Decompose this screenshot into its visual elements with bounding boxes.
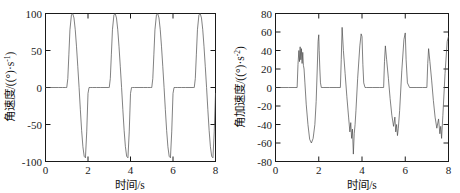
y-tick-label: -80	[257, 156, 272, 168]
y-axis-title-cn: 角速度	[3, 88, 16, 122]
x-tick-label: 2	[85, 164, 91, 176]
y-axis-title-cn: 角加速度	[233, 83, 246, 128]
x-axis-title-cn: 时间	[115, 179, 137, 191]
y-tick-label: 40	[261, 45, 273, 57]
y-axis-title-right: 角加速度/((°)·s-2)	[233, 46, 247, 128]
x-tick-label: 6	[170, 164, 176, 176]
y-tick-labels-left: 100 50 0 -50 -100	[22, 8, 43, 168]
x-tick-label: 8	[446, 164, 452, 176]
data-series-angular-velocity	[46, 14, 216, 158]
y-tick-label: 0	[37, 82, 43, 94]
x-tick-label: 0	[43, 164, 49, 176]
x-axis-title-right: 时间/s	[347, 179, 377, 191]
x-tick-labels-right: 0 2 4 6 8	[273, 164, 452, 176]
y-tick-label: -50	[27, 119, 42, 131]
y-tick-label: -20	[257, 100, 272, 112]
x-tick-label: 4	[359, 164, 365, 176]
angular-acceleration-svg: 80 60 40 20 0 -20 -40 -60 -80 0 2 4 6 8 …	[230, 0, 460, 193]
y-tick-label: -40	[257, 119, 272, 131]
y-tick-label: -100	[22, 156, 43, 168]
y-tick-label: -60	[257, 137, 272, 149]
y-tick-label: 50	[31, 45, 43, 57]
angular-velocity-svg: 100 50 0 -50 -100 0 2 4 6 8 时间/s 角速度/((°…	[0, 0, 230, 193]
x-axis-title-unit: /s	[137, 179, 145, 191]
data-series-angular-acceleration	[276, 27, 449, 154]
x-tick-labels-left: 0 2 4 6 8	[43, 164, 219, 176]
x-tick-label: 4	[128, 164, 134, 176]
y-tick-label: 60	[261, 26, 273, 38]
y-axis-title-left: 角速度/((°)·s-1)	[3, 52, 17, 123]
x-axis-title-unit: /s	[369, 179, 377, 191]
y-tick-label: 20	[261, 63, 273, 75]
x-axis-title-cn: 时间	[347, 179, 369, 191]
y-tick-label: 0	[267, 82, 273, 94]
x-tick-label: 8	[213, 164, 219, 176]
figure-container: 100 50 0 -50 -100 0 2 4 6 8 时间/s 角速度/((°…	[0, 0, 460, 193]
y-tick-label: 100	[26, 8, 43, 20]
x-axis-title-left: 时间/s	[115, 179, 145, 191]
chart-panel-angular-acceleration: 80 60 40 20 0 -20 -40 -60 -80 0 2 4 6 8 …	[230, 0, 460, 193]
x-tick-label: 0	[273, 164, 279, 176]
chart-panel-angular-velocity: 100 50 0 -50 -100 0 2 4 6 8 时间/s 角速度/((°…	[0, 0, 230, 193]
y-tick-label: 80	[261, 8, 273, 20]
x-tick-label: 6	[403, 164, 409, 176]
x-tick-label: 2	[316, 164, 322, 176]
y-tick-labels-right: 80 60 40 20 0 -20 -40 -60 -80	[257, 8, 272, 168]
